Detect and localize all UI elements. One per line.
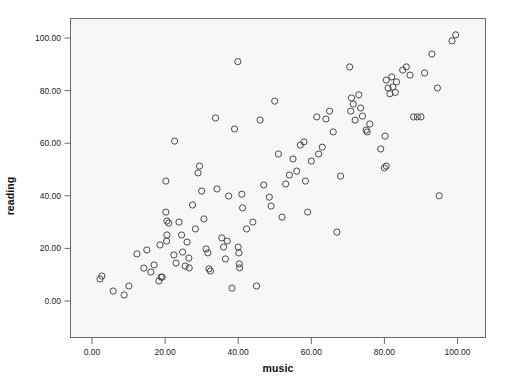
x-axis-tick-label: 80.00 xyxy=(374,347,395,357)
y-axis-tick-label: 0.00 xyxy=(44,296,61,306)
x-axis-tick-label: 40.00 xyxy=(228,347,249,357)
scatter-plot-figure: reading music 0.0020.0040.0060.0080.0010… xyxy=(0,0,509,392)
x-axis-tick-label: 100.00 xyxy=(445,347,471,357)
y-axis-title: reading xyxy=(4,177,16,216)
y-axis-tick-label: 100.00 xyxy=(35,33,61,43)
x-axis-title: music xyxy=(263,362,294,374)
x-axis-tick-label: 0.00 xyxy=(84,347,101,357)
x-axis-tick-label: 60.00 xyxy=(301,347,322,357)
y-axis-tick-label: 20.00 xyxy=(40,243,61,253)
y-axis-tick-label: 60.00 xyxy=(40,138,61,148)
plot-canvas xyxy=(0,0,509,392)
plot-frame xyxy=(71,19,486,338)
x-axis-tick-label: 20.00 xyxy=(154,347,175,357)
y-axis-tick-label: 80.00 xyxy=(40,86,61,96)
y-axis-tick-label: 40.00 xyxy=(40,191,61,201)
